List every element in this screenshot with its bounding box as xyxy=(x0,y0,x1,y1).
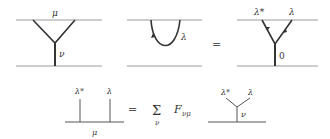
label-lambda: λ xyxy=(288,7,295,17)
label-lambda: λ xyxy=(106,87,112,96)
label-lambda-star: λ* xyxy=(220,88,230,97)
sum-index: ν xyxy=(155,119,160,127)
sum-symbol: Σ xyxy=(152,103,161,118)
label-nu: ν xyxy=(59,49,65,59)
label-lambda: λ xyxy=(180,32,187,42)
diagram-top-left: μ ν xyxy=(16,8,102,66)
label-nu: ν xyxy=(241,110,246,119)
diagram-top-middle: λ xyxy=(127,20,202,66)
label-lambda: λ xyxy=(247,88,253,97)
label-zero: 0 xyxy=(279,51,285,61)
diagram-canvas: μ ν λ = λ* λ 0 λ* λ μ = Σ ν F νμ xyxy=(0,0,330,139)
diagram-top-right: λ* λ 0 xyxy=(237,7,318,66)
label-mu: μ xyxy=(52,8,58,18)
label-mu: μ xyxy=(92,128,97,137)
coefficient-F: F xyxy=(173,103,182,116)
label-lambda-star: λ* xyxy=(253,7,265,17)
diagram-bottom-left: λ* λ μ xyxy=(65,87,124,137)
equals-sign: = xyxy=(128,103,137,116)
label-lambda-star: λ* xyxy=(74,87,84,96)
coefficient-subscript: νμ xyxy=(182,110,191,118)
diagram-bottom-right: λ* λ ν xyxy=(208,88,266,122)
equals-sign: = xyxy=(212,38,221,51)
